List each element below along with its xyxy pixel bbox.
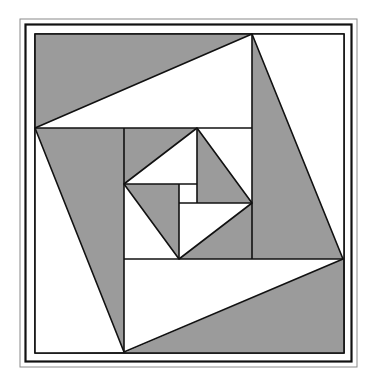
spiral-squares-diagram — [0, 0, 376, 387]
center-white-square — [179, 184, 197, 203]
